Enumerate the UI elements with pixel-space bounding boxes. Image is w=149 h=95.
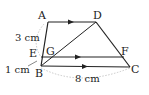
label-ae-length: 3 cm — [15, 32, 40, 43]
parallel-arrow-icon — [75, 55, 81, 60]
label-b: B — [35, 67, 43, 80]
parallel-arrow-icon — [82, 64, 88, 69]
label-c: C — [131, 63, 139, 76]
label-a: A — [37, 9, 47, 22]
label-d: D — [93, 9, 102, 22]
label-e: E — [29, 47, 37, 60]
label-eb-length: 1 cm — [5, 64, 30, 75]
segment-bd — [41, 22, 96, 66]
segment-ab — [41, 22, 48, 66]
label-f: F — [121, 45, 129, 58]
label-bc-length: 8 cm — [75, 73, 100, 84]
diagram-canvas: A D 3 cm E G F 1 cm B C 8 cm — [0, 0, 149, 95]
parallel-arrow-icon — [68, 20, 74, 25]
trapezoid-diagram: A D 3 cm E G F 1 cm B C 8 cm — [0, 0, 149, 95]
label-g: G — [46, 45, 55, 58]
